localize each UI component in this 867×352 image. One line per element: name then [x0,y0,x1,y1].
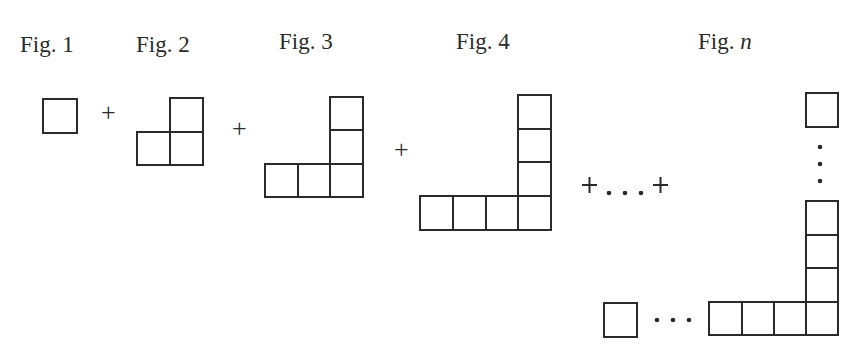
horizontal-ellipsis-dots [655,318,692,323]
fig-4-squares [420,95,551,230]
sum-ellipsis-plus-signs [582,177,668,193]
fig-3-squares [265,97,363,197]
fig-1-squares [43,99,77,133]
fig-2-squares [137,98,203,165]
fig-n-squares [604,93,838,337]
vertical-ellipsis-dots [818,145,823,184]
square-figures-diagram [0,0,867,352]
sum-ellipsis-dots [607,191,644,196]
